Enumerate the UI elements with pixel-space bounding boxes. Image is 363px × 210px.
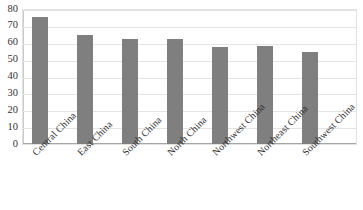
bar-chart: 80706050403020100 Central ChinaEast Chin…: [0, 0, 363, 210]
y-tick-label: 60: [0, 37, 18, 48]
y-tick-label: 40: [0, 71, 18, 82]
bar: [212, 47, 228, 144]
bar: [122, 39, 138, 144]
bar: [167, 39, 183, 144]
bar: [257, 46, 273, 144]
y-tick-label: 70: [0, 20, 18, 31]
y-axis-tick-labels: 80706050403020100: [0, 9, 18, 145]
x-axis-tick-labels: Central ChinaEast ChinaSouth ChinaNorth …: [22, 146, 363, 210]
y-tick-label: 80: [0, 4, 18, 15]
y-tick-label: 0: [0, 139, 18, 150]
y-tick-label: 30: [0, 88, 18, 99]
bar: [77, 35, 93, 144]
y-tick-label: 50: [0, 54, 18, 65]
bar: [302, 52, 318, 144]
bar: [32, 17, 48, 144]
y-tick-label: 10: [0, 122, 18, 133]
y-tick-label: 20: [0, 105, 18, 116]
